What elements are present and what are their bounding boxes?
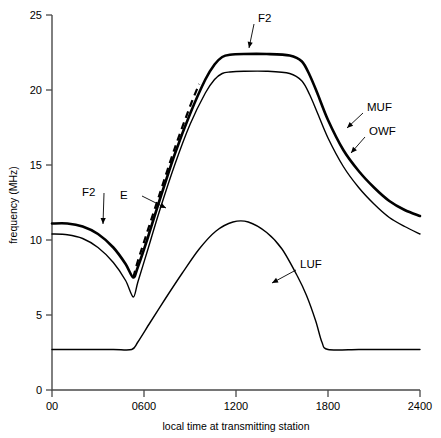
x-axis-tick-label: 1200 (224, 400, 248, 412)
y-axis-title: frequency (MHz) (7, 166, 19, 244)
annotation-label-owf: OWF (369, 125, 396, 137)
y-axis-tick-label: 20 (30, 84, 42, 96)
annotation-label-muf: MUF (367, 101, 392, 113)
y-axis-tick-label: 0 (36, 384, 42, 396)
x-axis-title: local time at transmitting station (162, 420, 309, 432)
y-axis-tick-label: 5 (36, 309, 42, 321)
frequency-vs-local-time-chart: 0510152025000600120018002400 F2EF2MUFOWF… (0, 0, 441, 438)
annotation-label-f2-plateau: F2 (258, 12, 271, 24)
plot-background (0, 0, 441, 438)
annotation-label-e-layer: E (120, 189, 128, 201)
x-axis-tick-label: 0600 (132, 400, 156, 412)
x-axis-tick-label: 00 (46, 400, 58, 412)
annotation-label-f2-morning: F2 (82, 186, 95, 198)
annotation-label-luf: LUF (300, 258, 322, 270)
x-axis-tick-label: 2400 (408, 400, 432, 412)
chart-container: 0510152025000600120018002400 F2EF2MUFOWF… (0, 0, 441, 438)
y-axis-tick-label: 25 (30, 9, 42, 21)
x-axis-tick-label: 1800 (316, 400, 340, 412)
y-axis-tick-label: 15 (30, 159, 42, 171)
y-axis-tick-label: 10 (30, 234, 42, 246)
